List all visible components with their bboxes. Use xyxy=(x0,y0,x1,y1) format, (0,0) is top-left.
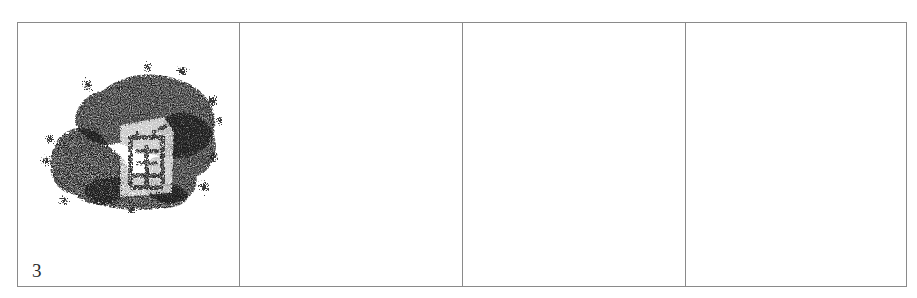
table-row: 3 xyxy=(18,23,907,287)
table-cell-2[interactable] xyxy=(240,23,463,287)
page-root: 3 xyxy=(0,0,917,298)
table-cell-1[interactable]: 3 xyxy=(18,23,240,287)
ink-rubbing-image xyxy=(36,61,222,213)
cell-3-content xyxy=(463,23,685,286)
cell-2-content xyxy=(240,23,462,286)
specimen-comparison-table: 3 xyxy=(17,22,907,287)
specimen-number-label: 3 xyxy=(32,261,42,280)
table-cell-4[interactable] xyxy=(686,23,907,287)
cell-1-content: 3 xyxy=(18,23,239,286)
cell-4-content xyxy=(686,23,906,286)
table-cell-3[interactable] xyxy=(463,23,686,287)
